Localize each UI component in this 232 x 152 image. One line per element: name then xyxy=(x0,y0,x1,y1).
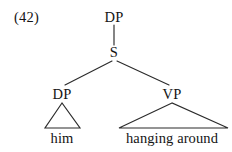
node-label-vp: VP xyxy=(163,87,182,102)
dp-triangle-icon xyxy=(45,103,80,128)
node-label-dp-subject: DP xyxy=(53,87,72,102)
terminal-label-hanging-around: hanging around xyxy=(126,131,218,146)
vp-triangle-icon xyxy=(119,103,228,128)
edge-s-to-dp xyxy=(65,61,112,85)
terminal-label-him: him xyxy=(51,131,74,146)
syntax-tree-figure: (42) DP S DP VP him hanging around xyxy=(0,0,232,152)
node-label-s: S xyxy=(110,45,118,60)
edge-s-to-vp xyxy=(117,61,169,85)
node-label-root-dp: DP xyxy=(105,10,124,25)
